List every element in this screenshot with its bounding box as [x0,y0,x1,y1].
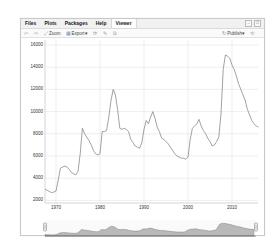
y-tick-label: 2000 [25,197,43,202]
y-tick-label: 4000 [25,175,43,180]
y-tick-label: 16000 [25,42,43,47]
x-tick-label: 1990 [134,205,154,210]
y-tick-label: 12000 [25,86,43,91]
viewer-refresh-button[interactable]: ⟲ [250,30,255,36]
brush-icon: ✎ [103,30,107,36]
dygraph-chart[interactable]: 2000400060008000100001200014000160001970… [21,38,264,235]
refresh-button[interactable]: ⟳ [93,30,98,36]
maximize-button[interactable]: □ [254,20,261,27]
clear-button[interactable]: ✎ [103,30,108,36]
toolbar-right: ↻Publish▾ ⟲ [222,29,260,37]
series-line [45,55,258,193]
viewer-toolbar: ⇦ ⇨ ⤢Zoom ▦Export▾ ⟳ ✎ ⧉ ↻Publish▾ ⟲ [21,29,264,38]
tab-files[interactable]: Files [21,19,40,28]
export-caret-icon: ▾ [85,31,88,36]
popout-icon: ⧉ [113,30,117,37]
range-handle-left[interactable] [44,223,47,231]
viewer-refresh-icon: ⟲ [250,30,254,36]
zoom-icon: ⤢ [44,30,48,37]
pane-tab-bar: Files Plots Packages Help Viewer – □ [21,19,264,29]
window-controls: – □ [245,20,261,27]
refresh-icon: ⟳ [93,30,97,36]
publish-caret-icon: ▾ [242,31,245,36]
popout-button[interactable]: ⧉ [113,30,118,37]
tab-help[interactable]: Help [92,19,111,28]
x-tick-label: 1980 [90,205,110,210]
publish-label: Publish [227,31,242,36]
back-arrow-icon: ⇦ [24,30,28,36]
viewer-pane: Files Plots Packages Help Viewer – □ ⇦ ⇨… [20,18,265,236]
y-tick-label: 8000 [25,131,43,136]
tab-plots[interactable]: Plots [40,19,60,28]
minimize-button[interactable]: – [245,20,252,27]
tab-viewer[interactable]: Viewer [111,19,137,28]
x-tick-label: 2000 [178,205,198,210]
range-handle-right[interactable] [255,223,258,231]
forward-button[interactable]: ⇨ [34,30,39,36]
zoom-label: Zoom [49,31,61,36]
export-label: Export [72,31,85,36]
y-tick-label: 10000 [25,109,43,114]
publish-icon: ↻ [222,30,226,36]
publish-button[interactable]: ↻Publish▾ [222,30,245,36]
zoom-button[interactable]: ⤢Zoom [44,30,61,37]
x-tick-label: 2010 [222,205,242,210]
forward-arrow-icon: ⇨ [34,30,38,36]
x-tick-label: 1970 [46,205,66,210]
back-button[interactable]: ⇦ [24,30,29,36]
tab-packages[interactable]: Packages [61,19,92,28]
y-tick-label: 6000 [25,153,43,158]
y-tick-label: 14000 [25,64,43,69]
export-icon: ▦ [66,30,71,36]
export-button[interactable]: ▦Export▾ [66,30,88,36]
